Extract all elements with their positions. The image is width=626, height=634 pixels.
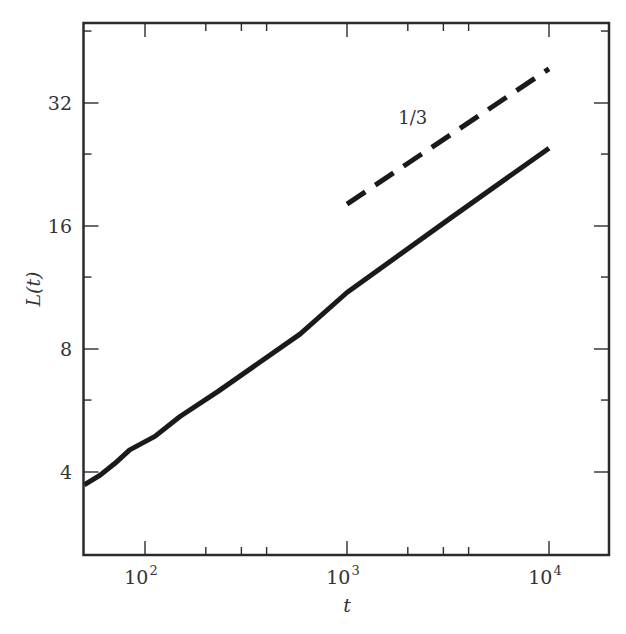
plot-series — [84, 69, 549, 485]
slope-guide-line — [347, 69, 549, 204]
y-tick-label: 8 — [60, 338, 72, 360]
plot-frame — [84, 23, 610, 555]
y-axis-label: L(t) — [22, 271, 44, 307]
chart: 102103104481632 t L(t) 1/3 — [0, 0, 626, 634]
y-tick-label: 16 — [48, 215, 72, 237]
tick-labels: 102103104481632 — [48, 92, 562, 588]
axis-ticks — [84, 23, 610, 555]
y-tick-label: 4 — [60, 461, 72, 483]
x-axis-label: t — [343, 594, 351, 616]
x-tick-label: 104 — [528, 563, 561, 588]
x-tick-label: 102 — [124, 563, 157, 588]
slope-annotation: 1/3 — [398, 107, 427, 128]
x-tick-label: 103 — [326, 563, 359, 588]
data-line — [84, 148, 549, 485]
y-tick-label: 32 — [48, 92, 72, 114]
